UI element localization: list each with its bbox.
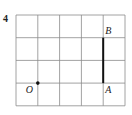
point-label-a: A [104,84,112,95]
grid-diagram: OAB [0,0,132,115]
point-label-o: O [26,84,33,95]
point-o-dot [36,81,40,85]
point-label-b: B [105,25,111,36]
